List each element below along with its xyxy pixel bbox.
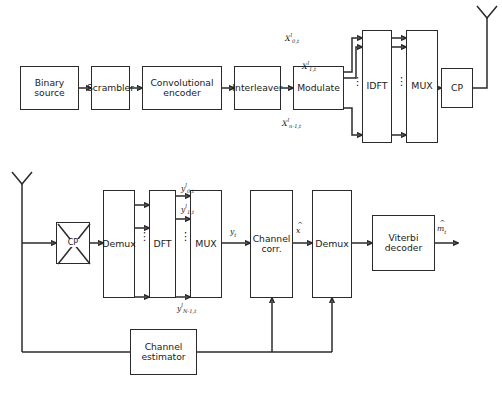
- modulate-label: Modulate: [297, 83, 340, 93]
- block-idft[interactable]: IDFT: [362, 30, 392, 143]
- cp-add-label: CP: [451, 83, 463, 93]
- block-convolutional-encoder[interactable]: Convolutionalencoder: [142, 66, 222, 110]
- ofdm-transceiver-diagram: Binarysource Scrambler Convolutionalenco…: [0, 0, 502, 408]
- label-y-t: yt: [230, 227, 236, 238]
- binary-source-line2: source: [34, 87, 65, 98]
- rx-demux-dots: ⋮: [139, 235, 145, 238]
- label-x-0-t: Xl0,t: [285, 32, 299, 44]
- conv-encoder-line2: encoder: [163, 87, 200, 98]
- scrambler-label: Scrambler: [87, 83, 134, 93]
- demux-rx-label: Demux: [315, 239, 349, 250]
- viterbi-line2: decoder: [385, 242, 422, 253]
- channel-estimator-line2: estimator: [141, 351, 185, 362]
- label-y-0-t: yl0,t: [181, 182, 194, 194]
- block-channel-estimator[interactable]: Channelestimator: [130, 329, 197, 375]
- label-m-hat-t: ^mt: [437, 224, 446, 235]
- label-x-hat: ^x: [296, 226, 300, 235]
- block-mux-tx[interactable]: MUX: [406, 30, 438, 143]
- label-x-n-1-t: Xln-1,t: [282, 117, 301, 129]
- idft-label: IDFT: [367, 81, 388, 92]
- label-y-1-t: yl1,t: [181, 203, 194, 215]
- tx-modulate-dots: ⋮: [352, 80, 358, 83]
- mux-tx-label: MUX: [411, 81, 432, 92]
- block-modulate[interactable]: Modulate: [293, 66, 344, 110]
- mux-rx-label: MUX: [195, 239, 216, 250]
- label-x-1-t: Xl1,t: [302, 60, 316, 72]
- cp-removal-label: CP: [67, 239, 79, 248]
- channel-corr-line2: corr.: [261, 243, 281, 254]
- block-interleaver[interactable]: Interleaver: [234, 66, 281, 110]
- block-mux-rx[interactable]: MUX: [190, 190, 222, 298]
- block-cp-add[interactable]: CP: [441, 68, 473, 108]
- tx-idft-dots: ⋮: [396, 80, 402, 83]
- block-scrambler[interactable]: Scrambler: [91, 66, 130, 110]
- block-viterbi-decoder[interactable]: Viterbidecoder: [372, 215, 435, 271]
- block-demux-rx[interactable]: Demux: [312, 190, 352, 298]
- demux-front-label: Demux: [102, 239, 136, 250]
- block-demux-front[interactable]: Demux: [103, 190, 135, 298]
- block-channel-corr[interactable]: Channelcorr.: [250, 190, 293, 298]
- rx-dft-dots: ⋮: [180, 235, 186, 238]
- block-cp-removal[interactable]: CP: [56, 222, 90, 264]
- interleaver-label: Interleaver: [232, 83, 282, 93]
- dft-label: DFT: [153, 239, 171, 250]
- block-binary-source[interactable]: Binarysource: [20, 66, 79, 110]
- label-y-N-1-t: ylN-1,t: [177, 302, 196, 314]
- block-dft[interactable]: DFT: [149, 190, 176, 298]
